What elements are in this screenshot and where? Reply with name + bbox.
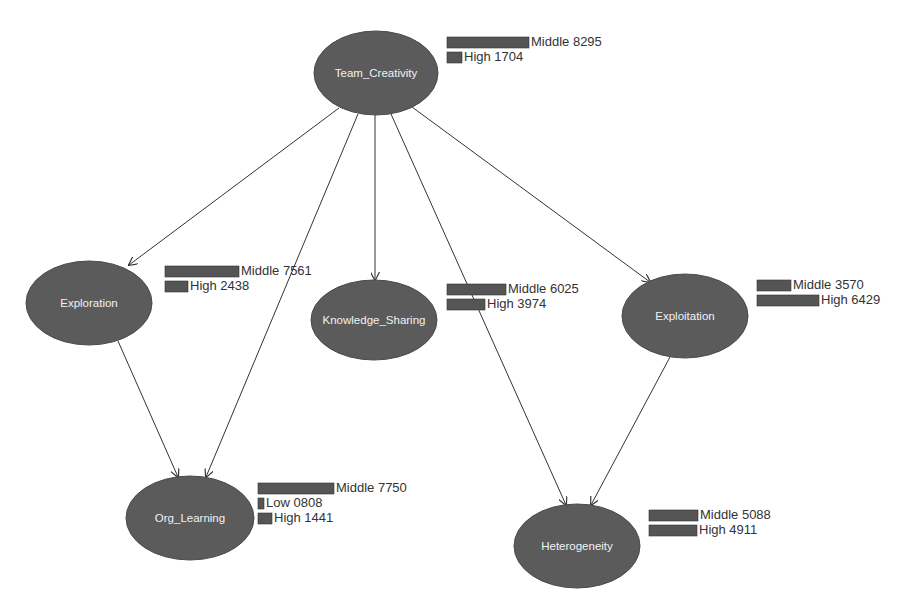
- state-label-middle: Middle 5088: [700, 507, 771, 522]
- state-label-high: High 3974: [487, 296, 546, 311]
- state-distribution: Middle 6025High 3974: [447, 281, 579, 311]
- node-team_creativity[interactable]: Team_CreativityMiddle 8295High 1704: [314, 31, 602, 115]
- edge-team_creativity-to-exploitation: [412, 107, 650, 282]
- state-bar-middle: [649, 510, 698, 521]
- node-knowledge_sharing[interactable]: Knowledge_SharingMiddle 6025High 3974: [311, 280, 579, 360]
- node-label: Exploration: [60, 297, 118, 309]
- state-label-middle: Middle 3570: [793, 277, 864, 292]
- node-label: Org_Learning: [155, 512, 225, 524]
- state-bar-middle: [447, 284, 506, 295]
- node-label: Team_Creativity: [335, 67, 418, 79]
- state-bar-high: [258, 513, 272, 524]
- state-bar-high: [447, 299, 485, 310]
- state-label-middle: Middle 8295: [531, 34, 602, 49]
- state-label-middle: Middle 7750: [336, 480, 407, 495]
- state-bar-low: [258, 498, 264, 509]
- nodes-layer: Team_CreativityMiddle 8295High 1704Explo…: [26, 31, 880, 588]
- node-label: Heterogeneity: [541, 540, 613, 552]
- state-bar-high: [165, 281, 188, 292]
- state-distribution: Middle 3570High 6429: [757, 277, 880, 307]
- node-label: Knowledge_Sharing: [323, 314, 426, 326]
- state-distribution: Middle 7750Low 0808High 1441: [258, 480, 407, 525]
- node-label: Exploitation: [655, 310, 714, 322]
- edge-exploration-to-org_learning: [118, 341, 178, 477]
- state-bar-middle: [258, 483, 334, 494]
- state-label-high: High 6429: [821, 292, 880, 307]
- state-bar-high: [649, 525, 697, 536]
- state-label-middle: Middle 7561: [241, 263, 312, 278]
- state-bar-middle: [757, 280, 791, 291]
- state-distribution: Middle 7561High 2438: [165, 263, 312, 293]
- node-heterogeneity[interactable]: HeterogeneityMiddle 5088High 4911: [514, 504, 771, 588]
- node-exploration[interactable]: ExplorationMiddle 7561High 2438: [26, 261, 312, 345]
- state-label-middle: Middle 6025: [508, 281, 579, 296]
- edge-team_creativity-to-exploration: [129, 108, 339, 265]
- state-distribution: Middle 8295High 1704: [447, 34, 602, 64]
- state-label-high: High 1704: [464, 49, 523, 64]
- state-label-high: High 4911: [699, 522, 757, 537]
- state-label-low: Low 0808: [266, 495, 322, 510]
- node-exploitation[interactable]: ExploitationMiddle 3570High 6429: [622, 274, 880, 358]
- edge-exploitation-to-heterogeneity: [591, 357, 670, 505]
- state-bar-middle: [447, 37, 529, 48]
- bayesian-network-diagram: Team_CreativityMiddle 8295High 1704Explo…: [0, 0, 908, 607]
- state-label-high: High 1441: [274, 510, 333, 525]
- state-label-high: High 2438: [190, 278, 249, 293]
- state-bar-middle: [165, 266, 239, 277]
- state-bar-high: [447, 52, 462, 63]
- state-bar-high: [757, 295, 819, 306]
- node-org_learning[interactable]: Org_LearningMiddle 7750Low 0808High 1441: [126, 476, 407, 560]
- state-distribution: Middle 5088High 4911: [649, 507, 771, 537]
